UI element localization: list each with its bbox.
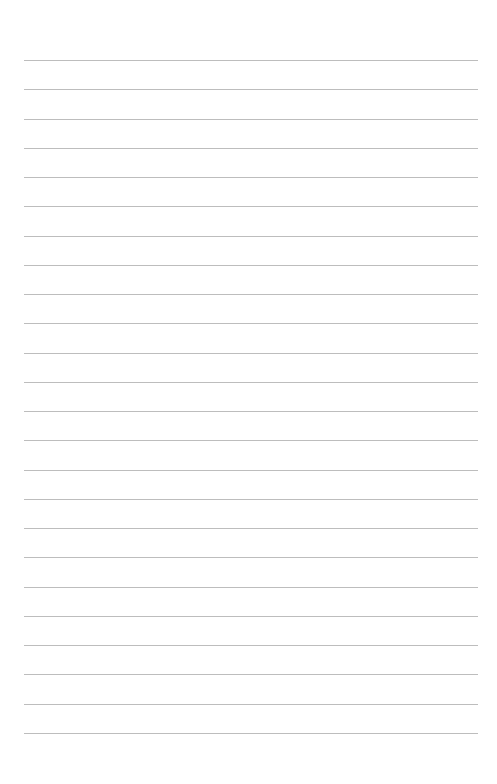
ruled-line	[24, 704, 478, 705]
ruled-line	[24, 89, 478, 90]
ruled-line	[24, 265, 478, 266]
ruled-line	[24, 148, 478, 149]
ruled-line	[24, 557, 478, 558]
lined-paper-page	[0, 0, 497, 784]
ruled-line	[24, 177, 478, 178]
ruled-line	[24, 587, 478, 588]
ruled-line	[24, 294, 478, 295]
ruled-line	[24, 645, 478, 646]
ruled-line	[24, 499, 478, 500]
ruled-line	[24, 206, 478, 207]
ruled-line	[24, 323, 478, 324]
ruled-line	[24, 60, 478, 61]
ruled-line	[24, 236, 478, 237]
ruled-line	[24, 440, 478, 441]
ruled-line	[24, 382, 478, 383]
ruled-line	[24, 616, 478, 617]
ruled-line	[24, 470, 478, 471]
ruled-line	[24, 411, 478, 412]
ruled-line	[24, 733, 478, 734]
ruled-line	[24, 353, 478, 354]
ruled-line	[24, 528, 478, 529]
ruled-line	[24, 674, 478, 675]
ruled-line	[24, 119, 478, 120]
